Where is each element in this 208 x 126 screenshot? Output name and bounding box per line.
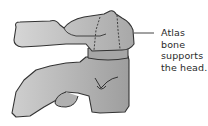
label-line-2: supports	[161, 50, 208, 62]
label-line-3: the head.	[161, 62, 208, 74]
atlas-label: Atlas bone supports the head.	[161, 27, 208, 73]
lower-vertebra	[12, 56, 129, 117]
atlas-bone	[14, 11, 134, 51]
label-line-1: Atlas bone	[161, 27, 208, 50]
